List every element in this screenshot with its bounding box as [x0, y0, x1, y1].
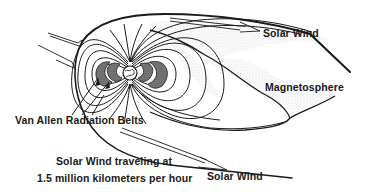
solar-wind-label-top: Solar Wind: [263, 28, 319, 39]
van-allen-label: Van Allen Radiation Belts: [15, 115, 144, 126]
solar-wind-speed-line1: Solar Wind traveling at: [56, 156, 172, 167]
solar-wind-label-bottom: Solar Wind: [207, 171, 263, 182]
solar-wind-speed-line2: 1.5 million kilometers per hour: [37, 173, 192, 184]
magnetosphere-label: Magnetosphere: [265, 82, 344, 93]
earth: [123, 66, 137, 80]
